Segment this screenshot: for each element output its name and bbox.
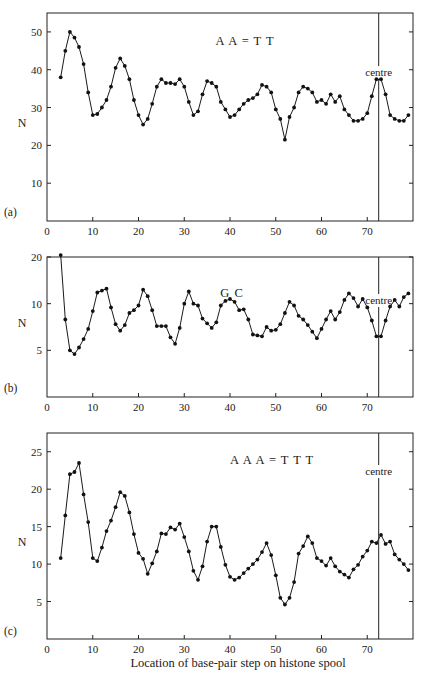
data-point xyxy=(246,567,250,571)
data-point xyxy=(361,117,365,121)
data-point xyxy=(397,305,401,309)
data-point xyxy=(246,98,250,102)
data-point xyxy=(219,545,223,549)
data-point xyxy=(155,85,159,89)
data-point xyxy=(77,461,81,465)
figure: 0102030405060701020304050N(a)A A = T Tce… xyxy=(0,0,424,678)
data-point xyxy=(155,324,159,328)
data-point xyxy=(333,564,337,568)
data-point xyxy=(320,327,324,331)
data-point xyxy=(329,556,333,560)
data-point xyxy=(343,298,347,302)
data-point xyxy=(324,564,328,568)
data-point xyxy=(178,522,182,526)
data-point xyxy=(105,529,109,533)
data-point xyxy=(214,320,218,324)
data-point xyxy=(320,559,324,563)
data-point xyxy=(214,525,218,529)
data-point xyxy=(343,108,347,112)
data-point xyxy=(137,304,141,308)
data-point xyxy=(114,505,118,509)
data-point xyxy=(132,532,136,536)
y-tick-label: 40 xyxy=(31,64,43,76)
data-point xyxy=(256,334,260,338)
data-point xyxy=(210,81,214,85)
data-point xyxy=(201,92,205,96)
y-tick-label: 10 xyxy=(31,177,43,189)
data-point xyxy=(388,540,392,544)
data-point xyxy=(91,113,95,117)
data-point xyxy=(141,123,145,127)
data-point xyxy=(274,573,278,577)
data-point xyxy=(205,79,209,83)
data-point xyxy=(375,334,379,338)
data-point xyxy=(379,533,383,537)
data-series-line xyxy=(61,255,409,354)
data-point xyxy=(237,576,241,580)
data-point xyxy=(169,526,173,530)
data-point xyxy=(402,295,406,299)
data-point xyxy=(384,542,388,546)
data-point xyxy=(329,309,333,313)
x-tick-label: 0 xyxy=(44,225,50,237)
centre-label: centre xyxy=(365,66,392,78)
x-tick-label: 70 xyxy=(362,643,374,655)
data-point xyxy=(77,45,81,49)
y-tick-label: 30 xyxy=(31,102,43,114)
data-point xyxy=(196,109,200,113)
data-point xyxy=(288,300,292,304)
data-point xyxy=(301,318,305,322)
data-point xyxy=(77,346,81,350)
data-point xyxy=(169,335,173,339)
y-tick-label: 20 xyxy=(31,251,43,263)
data-point xyxy=(365,111,369,115)
data-point xyxy=(224,108,228,112)
data-point xyxy=(82,337,86,341)
data-point xyxy=(132,308,136,312)
data-point xyxy=(333,318,337,322)
data-point xyxy=(228,115,232,119)
data-point xyxy=(324,102,328,106)
data-point xyxy=(407,568,411,572)
y-tick-label: 20 xyxy=(31,139,43,151)
data-point xyxy=(109,85,113,89)
data-point xyxy=(160,77,164,81)
data-point xyxy=(402,562,406,566)
data-point xyxy=(192,113,196,117)
data-point xyxy=(375,77,379,81)
data-point xyxy=(269,553,273,557)
x-tick-label: 60 xyxy=(316,401,328,413)
data-point xyxy=(251,333,255,337)
x-tick-label: 50 xyxy=(270,225,282,237)
data-point xyxy=(155,550,159,554)
data-point xyxy=(73,352,77,356)
data-point xyxy=(123,494,127,498)
centre-label: centre xyxy=(365,465,392,477)
data-point xyxy=(127,311,131,315)
data-point xyxy=(137,113,141,117)
panel-title: A A A = T T T xyxy=(230,453,314,467)
data-point xyxy=(146,117,150,121)
data-point xyxy=(100,546,104,550)
data-point xyxy=(146,294,150,298)
data-point xyxy=(315,556,319,560)
data-point xyxy=(132,98,136,102)
data-point xyxy=(187,100,191,104)
data-point xyxy=(338,94,342,98)
data-point xyxy=(68,472,72,476)
data-point xyxy=(242,571,246,575)
data-point xyxy=(315,100,319,104)
data-point xyxy=(251,96,255,100)
data-point xyxy=(347,576,351,580)
data-point xyxy=(397,119,401,123)
data-point xyxy=(105,287,109,291)
data-point xyxy=(150,561,154,565)
data-point xyxy=(68,30,72,34)
data-point xyxy=(384,92,388,96)
data-point xyxy=(347,113,351,117)
data-point xyxy=(343,573,347,577)
data-point xyxy=(288,596,292,600)
data-point xyxy=(182,535,186,539)
y-tick-label: 5 xyxy=(37,596,43,608)
data-point xyxy=(196,578,200,582)
